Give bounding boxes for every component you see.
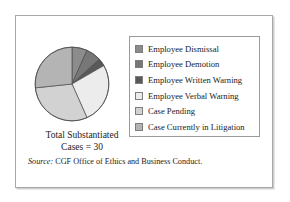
legend-swatch-icon	[135, 76, 143, 84]
legend-item-label: Case Currently in Litigation	[148, 122, 245, 132]
pie-chart	[34, 46, 110, 122]
legend-swatch-icon	[135, 107, 143, 115]
source-text: CGF Office of Ethics and Business Conduc…	[53, 157, 202, 166]
legend-item-label: Employee Dismissal	[148, 44, 219, 54]
caption-line-2: Cases = 30	[28, 141, 136, 153]
legend-item: Employee Written Warning	[135, 72, 259, 88]
legend-item-label: Employee Demotion	[148, 59, 219, 69]
legend-item: Case Pending	[135, 103, 259, 119]
legend-swatch-icon	[135, 123, 143, 131]
caption-line-1: Total Substantiated	[28, 129, 136, 141]
legend-item: Employee Dismissal	[135, 41, 259, 57]
legend-swatch-icon	[135, 60, 143, 68]
legend-swatch-icon	[135, 45, 143, 53]
legend-swatch-icon	[135, 92, 143, 100]
legend-item: Employee Demotion	[135, 57, 259, 73]
pie-chart-svg	[34, 46, 110, 122]
pie-slice	[35, 47, 72, 88]
figure-frame: Total Substantiated Cases = 30 Employee …	[15, 15, 273, 188]
legend-item-label: Case Pending	[148, 106, 195, 116]
pie-caption: Total Substantiated Cases = 30	[28, 129, 136, 153]
legend-item-label: Employee Written Warning	[148, 75, 242, 85]
source-note: Source: CGF Office of Ethics and Busines…	[28, 157, 202, 166]
legend-item-label: Employee Verbal Warning	[148, 91, 239, 101]
pie-chart-figure: Total Substantiated Cases = 30 Employee …	[16, 16, 272, 187]
source-label: Source:	[28, 157, 53, 166]
legend: Employee DismissalEmployee DemotionEmplo…	[129, 36, 260, 137]
legend-item: Employee Verbal Warning	[135, 88, 259, 104]
legend-item: Case Currently in Litigation	[135, 119, 259, 135]
